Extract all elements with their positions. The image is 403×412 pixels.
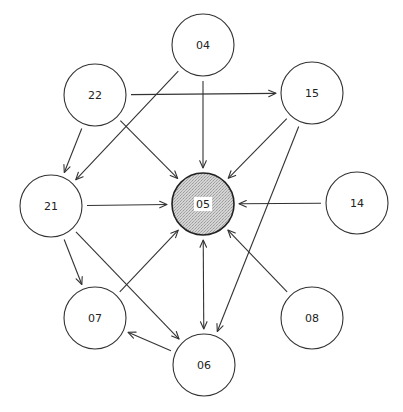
node-14[interactable]: 14 <box>326 172 388 234</box>
node-label: 06 <box>197 359 211 372</box>
node-label: 08 <box>305 312 319 325</box>
edge-06-to-07 <box>128 332 171 351</box>
node-04[interactable]: 04 <box>172 14 234 76</box>
node-label: 21 <box>44 200 58 213</box>
node-22[interactable]: 22 <box>64 64 126 126</box>
edge-07-to-05 <box>120 230 178 292</box>
node-label: 14 <box>350 197 364 210</box>
nodes-layer: 042215210514070806 <box>20 14 388 396</box>
edge-22-to-05 <box>120 121 177 179</box>
node-label: 07 <box>88 312 102 325</box>
edge-line <box>128 332 171 350</box>
node-label: 22 <box>88 89 102 102</box>
edge-line <box>64 128 81 172</box>
edge-21-to-05 <box>87 201 167 208</box>
edge-line <box>203 240 204 329</box>
edge-line <box>239 203 321 204</box>
edge-line <box>120 230 178 292</box>
node-05[interactable]: 05 <box>172 173 234 235</box>
edge-14-to-05 <box>239 200 321 207</box>
edge-line <box>228 119 287 179</box>
edge-15-to-05 <box>228 119 287 179</box>
node-06[interactable]: 06 <box>173 334 235 396</box>
node-label: 04 <box>196 39 210 52</box>
node-08[interactable]: 08 <box>281 287 343 349</box>
node-label: 05 <box>196 198 210 211</box>
node-07[interactable]: 07 <box>64 287 126 349</box>
edge-22-to-21 <box>64 128 82 172</box>
edge-line <box>87 204 167 205</box>
edge-line <box>64 240 82 285</box>
edge-21-to-07 <box>64 240 82 285</box>
edge-05-to-06 <box>200 240 207 329</box>
node-21[interactable]: 21 <box>20 175 82 237</box>
edge-line <box>120 121 177 179</box>
node-label: 15 <box>305 87 319 100</box>
node-15[interactable]: 15 <box>281 62 343 124</box>
directed-graph-diagram: 042215210514070806 <box>0 0 403 412</box>
